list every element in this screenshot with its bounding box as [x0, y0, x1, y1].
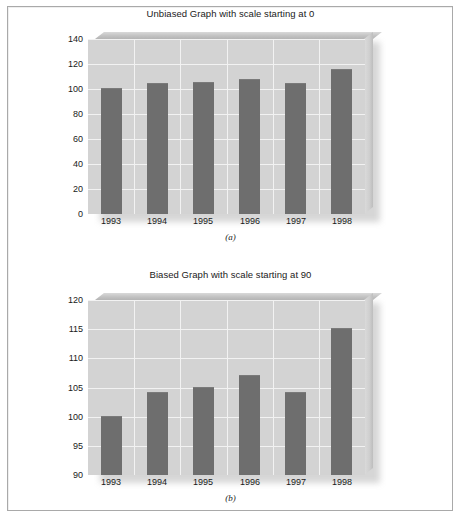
x-axis-tick-label: 1995 — [193, 477, 213, 487]
plot-3d-top-face-a — [95, 32, 382, 39]
chart-title-a: Unbiased Graph with scale starting at 0 — [0, 6, 461, 22]
plot-panel-a — [88, 39, 365, 214]
chart-plot-region-a: 020406080100120140 199319941995199619971… — [0, 26, 461, 226]
x-axis-tick-label: 1993 — [101, 216, 121, 226]
y-axis-b: 9095100105110115120 — [52, 293, 86, 475]
plot-panel-b — [88, 300, 365, 475]
bar-1997 — [285, 83, 306, 214]
x-axis-tick-label: 1994 — [147, 477, 167, 487]
x-axis-a: 199319941995199619971998 — [88, 216, 365, 230]
x-axis-tick-label: 1995 — [193, 216, 213, 226]
x-axis-tick-label: 1996 — [240, 477, 260, 487]
x-axis-tick-label: 1998 — [332, 216, 352, 226]
bar-series-b — [88, 300, 365, 475]
y-axis-tick-label: 120 — [68, 295, 83, 305]
bar-1998 — [331, 328, 352, 475]
y-axis-tick-label: 90 — [73, 470, 83, 480]
y-axis-tick-label: 40 — [73, 159, 83, 169]
chart-figure-a: Unbiased Graph with scale starting at 0 … — [0, 6, 461, 242]
figure-caption-b: (b) — [0, 493, 461, 503]
y-axis-tick-label: 115 — [69, 324, 83, 334]
plot-3d-side-face-a — [364, 32, 373, 214]
x-axis-tick-label: 1994 — [147, 216, 167, 226]
y-axis-tick-label: 0 — [78, 209, 83, 219]
bar-1993 — [101, 416, 122, 475]
x-axis-tick-label: 1997 — [286, 477, 306, 487]
y-axis-tick-label: 100 — [68, 412, 83, 422]
bar-1997 — [285, 392, 306, 475]
bar-1998 — [331, 69, 352, 214]
plot-3d-side-face-b — [364, 293, 373, 475]
y-axis-tick-label: 110 — [69, 353, 83, 363]
y-axis-tick-label: 60 — [73, 134, 83, 144]
chart-title-b: Biased Graph with scale starting at 90 — [0, 267, 461, 283]
plot-3d-top-face-b — [95, 293, 382, 300]
x-axis-tick-label: 1998 — [332, 477, 352, 487]
y-axis-tick-label: 20 — [73, 184, 83, 194]
bar-series-a — [88, 39, 365, 214]
figure-caption-a: (a) — [0, 232, 461, 242]
x-axis-b: 199319941995199619971998 — [88, 477, 365, 491]
y-axis-tick-label: 95 — [73, 441, 83, 451]
y-axis-tick-label: 120 — [68, 59, 83, 69]
y-axis-tick-label: 100 — [68, 84, 83, 94]
chart-plot-region-b: 9095100105110115120 19931994199519961997… — [0, 287, 461, 487]
y-axis-a: 020406080100120140 — [52, 32, 86, 214]
bar-1996 — [239, 375, 260, 475]
y-axis-tick-label: 80 — [73, 109, 83, 119]
y-axis-tick-label: 140 — [68, 34, 83, 44]
bar-1994 — [147, 392, 168, 475]
x-axis-tick-label: 1996 — [240, 216, 260, 226]
y-axis-tick-label: 105 — [68, 383, 83, 393]
x-axis-tick-label: 1993 — [101, 477, 121, 487]
chart-figure-b: Biased Graph with scale starting at 90 9… — [0, 267, 461, 503]
figure-page: Unbiased Graph with scale starting at 0 … — [0, 0, 461, 520]
bar-1995 — [193, 387, 214, 476]
bar-1994 — [147, 83, 168, 214]
x-axis-tick-label: 1997 — [286, 216, 306, 226]
bar-1996 — [239, 79, 260, 214]
bar-1993 — [101, 88, 122, 214]
bar-1995 — [193, 82, 214, 214]
